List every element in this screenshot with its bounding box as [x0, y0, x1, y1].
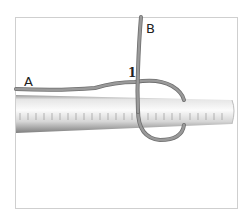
label-end-b: B	[146, 21, 155, 36]
knot-diagram	[0, 0, 252, 220]
rod	[16, 95, 234, 133]
label-end-a: A	[24, 74, 33, 89]
label-step-number: 1	[128, 66, 136, 80]
